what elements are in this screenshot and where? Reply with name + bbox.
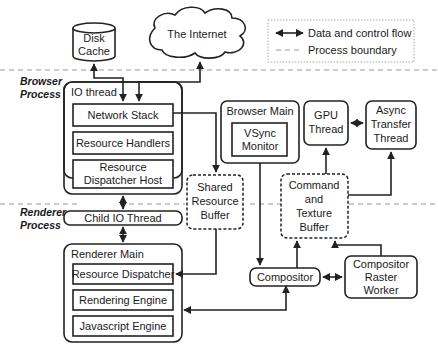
internet-node: The Internet — [150, 7, 246, 58]
gpu-thread-node: GPU Thread — [304, 101, 348, 145]
svg-text:The Internet: The Internet — [167, 28, 226, 40]
compositor-node: Compositor — [250, 268, 320, 286]
svg-text:Compositor: Compositor — [353, 258, 410, 270]
svg-text:Browser Main: Browser Main — [226, 105, 293, 117]
async-transfer-node: Async Transfer Thread — [366, 101, 416, 149]
command-texture-buffer-node: Command and Texture Buffer — [281, 174, 348, 238]
svg-text:Rendering Engine: Rendering Engine — [79, 294, 167, 306]
child-io-thread-node: Child IO Thread — [64, 211, 182, 225]
svg-text:Resource Dispatcher: Resource Dispatcher — [72, 268, 175, 280]
renderer-process-label-1: Renderer — [20, 206, 67, 218]
architecture-diagram: Data and control flow Process boundary B… — [0, 0, 438, 362]
svg-text:Compositor: Compositor — [257, 271, 314, 283]
legend: Data and control flow Process boundary — [268, 20, 414, 62]
svg-text:Network Stack: Network Stack — [88, 109, 159, 121]
legend-flow-label: Data and control flow — [308, 27, 411, 39]
browser-process-label-2: Process — [20, 88, 61, 100]
svg-text:Thread: Thread — [309, 123, 344, 135]
disk-cache-node: Disk Cache — [73, 23, 115, 61]
svg-text:Child IO Thread: Child IO Thread — [84, 212, 161, 224]
svg-text:Thread: Thread — [374, 132, 409, 144]
svg-text:Disk: Disk — [83, 32, 105, 44]
svg-text:and: and — [305, 193, 323, 205]
svg-text:Resource Handlers: Resource Handlers — [76, 137, 171, 149]
svg-text:Shared: Shared — [197, 181, 232, 193]
svg-text:VSync: VSync — [244, 127, 276, 139]
svg-text:Worker: Worker — [363, 284, 399, 296]
browser-process-label-1: Browser — [20, 75, 63, 87]
svg-text:Resource: Resource — [191, 195, 238, 207]
svg-text:Buffer: Buffer — [299, 221, 328, 233]
svg-text:Async: Async — [376, 104, 406, 116]
browser-main-node: Browser Main VSync Monitor — [221, 101, 299, 163]
svg-text:Command: Command — [289, 179, 340, 191]
svg-text:Buffer: Buffer — [200, 209, 229, 221]
svg-text:Cache: Cache — [78, 45, 110, 57]
svg-text:IO thread: IO thread — [71, 86, 117, 98]
svg-text:Raster: Raster — [365, 271, 398, 283]
raster-worker-node: Compositor Raster Worker — [345, 256, 417, 298]
svg-text:Resource: Resource — [99, 161, 146, 173]
svg-text:GPU: GPU — [314, 109, 338, 121]
svg-text:Transfer: Transfer — [371, 118, 412, 130]
svg-text:Texture: Texture — [296, 207, 332, 219]
svg-text:Dispatcher Host: Dispatcher Host — [84, 174, 162, 186]
shared-resource-buffer-node: Shared Resource Buffer — [187, 175, 243, 229]
renderer-main-group: Renderer Main Resource Dispatcher Render… — [64, 244, 182, 342]
renderer-process-label-2: Process — [20, 219, 61, 231]
svg-text:Monitor: Monitor — [242, 140, 279, 152]
svg-text:Renderer Main: Renderer Main — [71, 248, 144, 260]
legend-boundary-label: Process boundary — [308, 44, 397, 56]
svg-text:Javascript Engine: Javascript Engine — [80, 320, 167, 332]
